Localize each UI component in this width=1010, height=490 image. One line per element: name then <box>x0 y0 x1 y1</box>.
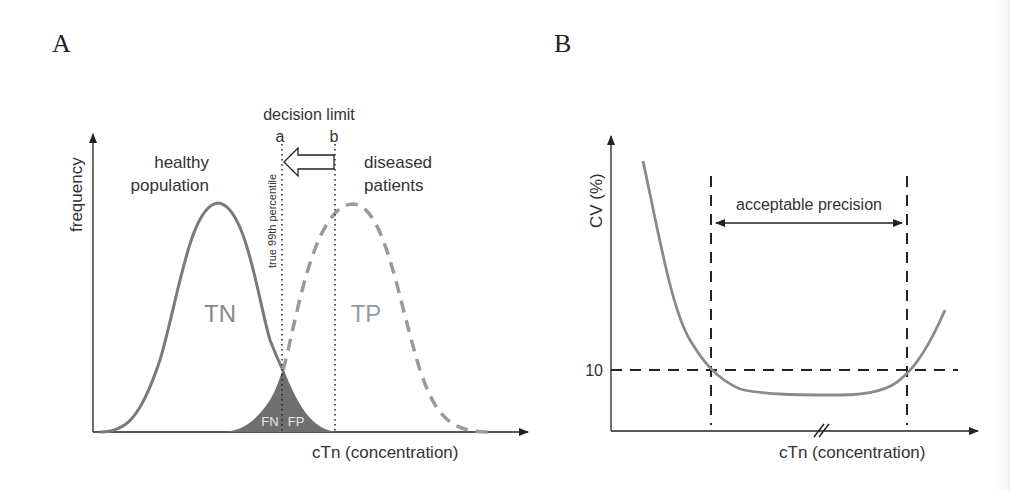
a-x-axis-label: cTn (concentration) <box>312 443 458 462</box>
b-x-axis-label: cTn (concentration) <box>779 443 925 462</box>
panel-a: A decision limit a b true 99th percentil… <box>52 29 528 462</box>
panel-a-letter: A <box>52 29 71 58</box>
panel-b-letter: B <box>554 29 571 58</box>
tn-label: TN <box>204 300 236 327</box>
healthy-label-line2: population <box>131 176 209 195</box>
healthy-population-curve <box>100 203 283 432</box>
decision-limit-label: decision limit <box>263 106 355 123</box>
shift-left-arrow-icon <box>284 148 334 176</box>
diseased-label-line2: patients <box>364 176 424 195</box>
figure: A decision limit a b true 99th percentil… <box>0 0 1010 490</box>
tp-label: TP <box>351 300 382 327</box>
fp-label: FP <box>288 414 305 429</box>
healthy-label-line1: healthy <box>154 153 209 172</box>
true-99th-percentile-label: true 99th percentile <box>266 174 278 268</box>
diseased-label-line1: diseased <box>364 153 432 172</box>
a-y-axis-label: frequency <box>67 157 86 232</box>
acceptable-precision-label: acceptable precision <box>736 196 882 213</box>
line-b-label: b <box>330 128 339 145</box>
b-y-axis-label: CV (%) <box>587 173 606 228</box>
line-a-label: a <box>276 128 285 145</box>
fn-label: FN <box>261 414 278 429</box>
y-tick-10: 10 <box>585 362 603 379</box>
fn-fp-overlap-area <box>222 368 338 432</box>
panel-b: B acceptable precision 10 CV (%) cTn (co… <box>554 29 978 462</box>
diseased-patients-curve <box>283 204 488 432</box>
